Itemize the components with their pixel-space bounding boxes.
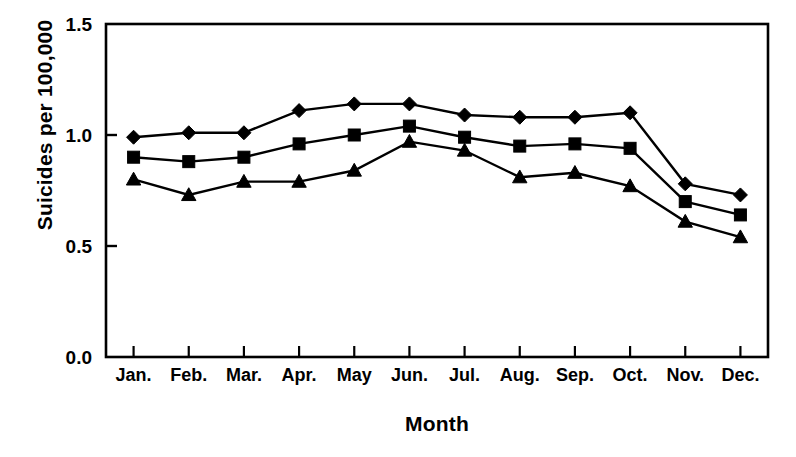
data-point-diamond [182, 126, 196, 140]
data-point-square [459, 131, 471, 143]
data-point-diamond [292, 104, 306, 118]
data-point-square [514, 140, 526, 152]
series-diamond [127, 97, 748, 202]
data-point-square [183, 156, 195, 168]
chart-figure: Suicides per 100,000 Month 0.00.51.01.5 … [0, 0, 796, 457]
data-point-triangle [402, 134, 416, 147]
series-line [134, 142, 741, 237]
data-point-square [403, 120, 415, 132]
data-point-diamond [237, 126, 251, 140]
data-point-diamond [513, 110, 527, 124]
data-point-diamond [458, 108, 472, 122]
data-point-diamond [402, 97, 416, 111]
data-point-triangle [678, 214, 692, 227]
data-point-square [679, 196, 691, 208]
plot-area [0, 0, 796, 457]
data-point-square [624, 142, 636, 154]
data-point-triangle [126, 172, 140, 185]
data-point-diamond [127, 130, 141, 144]
data-point-square [238, 151, 250, 163]
data-point-square [128, 151, 140, 163]
series-triangle [126, 134, 747, 242]
data-point-square [293, 138, 305, 150]
data-point-square [734, 209, 746, 221]
data-point-diamond [568, 110, 582, 124]
data-point-square [569, 138, 581, 150]
data-point-diamond [733, 188, 747, 202]
data-point-square [348, 129, 360, 141]
data-point-diamond [347, 97, 361, 111]
series-line [134, 104, 741, 195]
series-square [128, 120, 747, 221]
data-point-triangle [347, 163, 361, 176]
